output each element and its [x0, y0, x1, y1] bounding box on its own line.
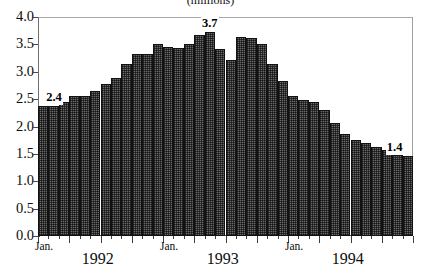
x-axis-tick-mark: [413, 236, 414, 243]
bar[interactable]: [184, 44, 194, 236]
x-axis-tick-mark: [215, 236, 216, 239]
bar[interactable]: [194, 35, 204, 236]
bar[interactable]: [392, 155, 402, 236]
x-axis-month-label: Jan.: [160, 240, 178, 252]
x-axis-tick-mark: [226, 236, 227, 243]
x-axis-tick-mark: [371, 236, 372, 239]
bar[interactable]: [267, 64, 277, 236]
y-axis: 4.03.53.02.52.01.51.00.50.0: [0, 0, 36, 269]
bar[interactable]: [288, 96, 298, 236]
bar[interactable]: [257, 44, 267, 236]
bar[interactable]: [121, 64, 131, 236]
data-label: 3.7: [201, 16, 219, 31]
x-axis-tick-mark: [361, 236, 362, 239]
bar[interactable]: [69, 96, 79, 236]
bar[interactable]: [111, 78, 121, 236]
bar[interactable]: [330, 123, 340, 236]
bar-chart: (millions) 4.03.53.02.52.01.51.00.50.0 J…: [0, 0, 421, 269]
x-axis-tick-mark: [392, 236, 393, 239]
bar[interactable]: [371, 147, 381, 236]
x-axis-tick-mark: [194, 236, 195, 243]
x-axis-tick-mark: [173, 236, 174, 239]
x-axis-year-label: 1994: [332, 250, 364, 268]
x-axis-tick-mark: [330, 236, 331, 239]
x-axis-year-label: 1993: [207, 250, 239, 268]
x-axis-tick-mark: [142, 236, 143, 239]
x-axis-tick-mark: [246, 236, 247, 239]
x-axis-tick-mark: [309, 236, 310, 239]
bar[interactable]: [132, 54, 142, 236]
data-label: 1.4: [386, 140, 404, 155]
x-axis-tick-mark: [351, 236, 352, 243]
y-axis-tick-label: 0.5: [0, 200, 34, 217]
bar[interactable]: [142, 54, 152, 236]
y-axis-tick-label: 4.0: [0, 8, 34, 25]
x-axis-tick-mark: [267, 236, 268, 239]
bar[interactable]: [80, 96, 90, 236]
x-axis-tick-mark: [257, 236, 258, 243]
bar[interactable]: [403, 156, 413, 236]
bar[interactable]: [38, 106, 48, 236]
x-axis-tick-mark: [298, 236, 299, 239]
y-axis-tick-label: 1.0: [0, 172, 34, 189]
bar[interactable]: [246, 38, 256, 236]
x-axis: Jan.1992Jan.1993Jan.1994: [0, 236, 421, 269]
bar[interactable]: [319, 110, 329, 236]
bar[interactable]: [278, 81, 288, 236]
bar[interactable]: [205, 32, 215, 236]
x-axis-tick-mark: [80, 236, 81, 239]
y-axis-tick-label: 2.5: [0, 90, 34, 107]
x-axis-tick-mark: [132, 236, 133, 243]
chart-title: (millions): [0, 0, 421, 8]
x-axis-month-label: Jan.: [285, 240, 303, 252]
x-axis-tick-mark: [278, 236, 279, 239]
y-axis-tick-label: 3.0: [0, 63, 34, 80]
x-axis-tick-mark: [121, 236, 122, 239]
bar[interactable]: [153, 44, 163, 236]
x-axis-tick-mark: [184, 236, 185, 239]
bar[interactable]: [298, 100, 308, 236]
bar[interactable]: [215, 49, 225, 236]
x-axis-tick-mark: [382, 236, 383, 243]
y-axis-tick-label: 3.5: [0, 35, 34, 52]
x-axis-tick-mark: [236, 236, 237, 239]
x-axis-tick-mark: [403, 236, 404, 239]
bar[interactable]: [236, 37, 246, 236]
bar[interactable]: [382, 150, 392, 237]
bar[interactable]: [309, 102, 319, 236]
x-axis-tick-mark: [111, 236, 112, 239]
x-axis-tick-mark: [90, 236, 91, 239]
x-axis-tick-mark: [205, 236, 206, 239]
y-axis-tick-label: 2.0: [0, 118, 34, 135]
x-axis-tick-mark: [69, 236, 70, 243]
bar-series: [38, 17, 413, 236]
x-axis-tick-mark: [59, 236, 60, 239]
bar[interactable]: [48, 106, 58, 236]
x-axis-tick-mark: [48, 236, 49, 239]
x-axis-month-label: Jan.: [35, 240, 53, 252]
data-label: 2.4: [45, 90, 63, 105]
x-axis-tick-mark: [319, 236, 320, 243]
y-axis-tick-label: 1.5: [0, 145, 34, 162]
x-axis-tick-mark: [153, 236, 154, 239]
bar[interactable]: [226, 60, 236, 236]
bar[interactable]: [101, 84, 111, 236]
bar[interactable]: [340, 134, 350, 236]
bar[interactable]: [90, 91, 100, 236]
bar[interactable]: [173, 48, 183, 236]
bar[interactable]: [59, 102, 69, 236]
x-axis-tick-mark: [340, 236, 341, 239]
bar[interactable]: [361, 143, 371, 236]
bar[interactable]: [351, 140, 361, 236]
x-axis-year-label: 1992: [82, 250, 114, 268]
bar[interactable]: [163, 47, 173, 236]
x-axis-tick-mark: [101, 236, 102, 243]
